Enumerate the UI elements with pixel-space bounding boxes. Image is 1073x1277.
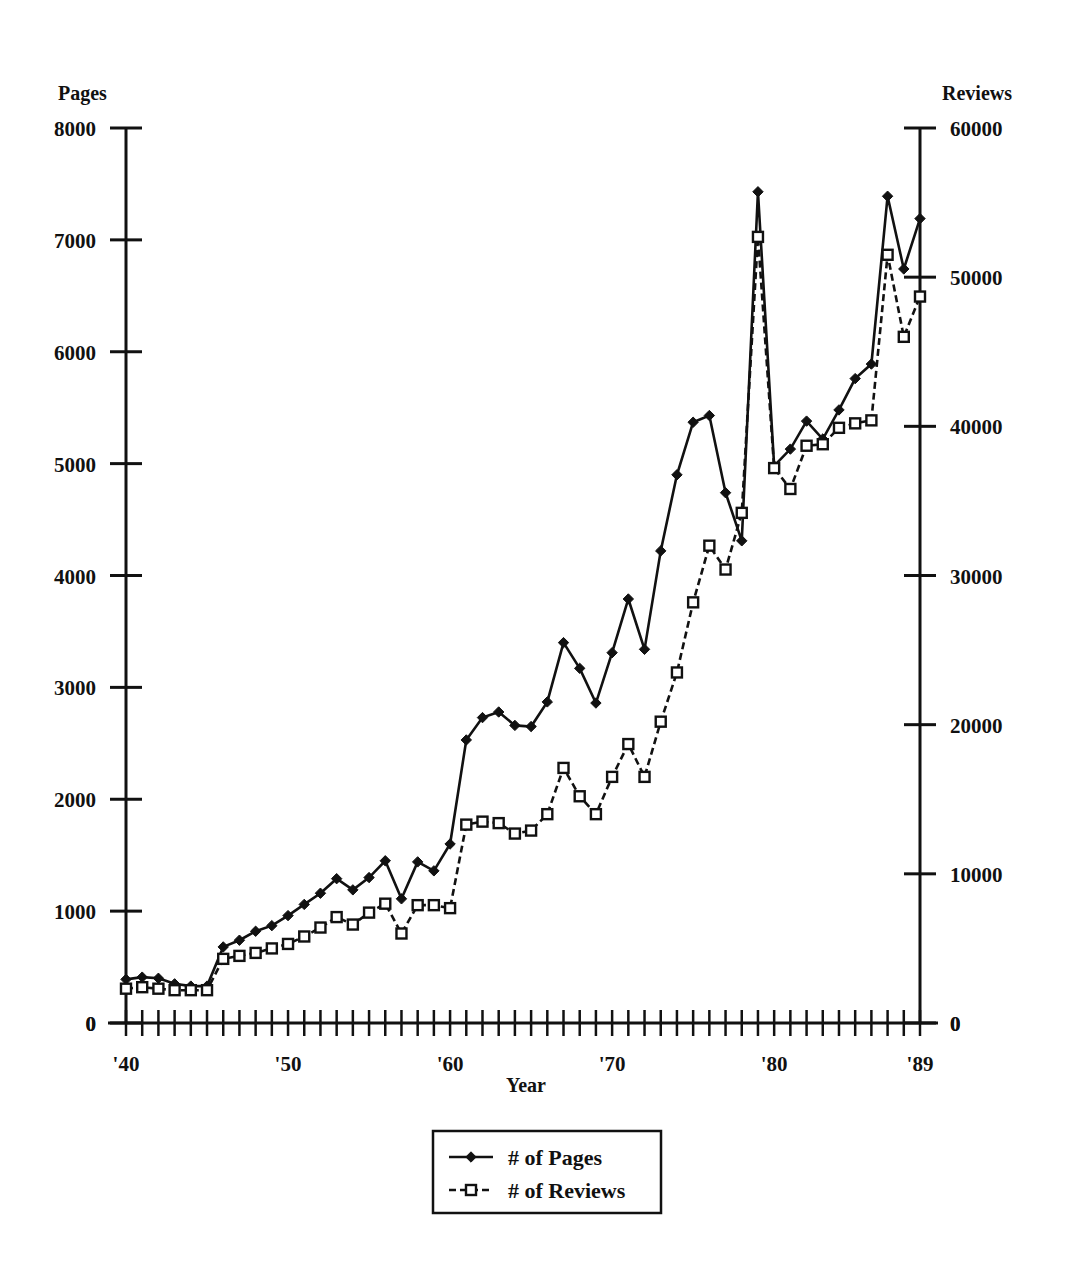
data-point-reviews (396, 929, 406, 939)
data-point-reviews (559, 763, 569, 773)
chart-legend: # of Pages# of Reviews (433, 1131, 661, 1213)
left-axis-tick-label: 6000 (54, 341, 96, 365)
x-axis-title: Year (506, 1074, 546, 1096)
data-point-reviews (315, 923, 325, 933)
legend-marker-reviews (466, 1185, 476, 1195)
data-point-reviews (721, 565, 731, 575)
legend-label-pages: # of Pages (508, 1145, 603, 1170)
data-point-reviews (672, 667, 682, 677)
data-point-reviews (802, 441, 812, 451)
data-point-reviews (283, 939, 293, 949)
data-point-reviews (380, 899, 390, 909)
x-axis-tick-label: '60 (437, 1052, 464, 1076)
legend-label-reviews: # of Reviews (508, 1178, 626, 1203)
x-axis-tick-label: '89 (907, 1052, 934, 1076)
data-point-reviews (785, 484, 795, 494)
data-point-reviews (591, 809, 601, 819)
data-point-reviews (623, 739, 633, 749)
data-point-reviews (526, 826, 536, 836)
left-axis-title: Pages (58, 82, 107, 105)
left-axis-tick-label: 2000 (54, 788, 96, 812)
right-axis-tick-label: 60000 (950, 117, 1003, 141)
data-point-reviews (121, 984, 131, 994)
right-axis-tick-label: 30000 (950, 565, 1003, 589)
left-axis-tick-label: 4000 (54, 565, 96, 589)
x-axis-tick-label: '70 (599, 1052, 626, 1076)
data-point-reviews (445, 903, 455, 913)
axis-zero-label: 0 (950, 1012, 961, 1036)
data-point-reviews (251, 948, 261, 958)
right-axis-tick-label: 20000 (950, 714, 1003, 738)
data-point-reviews (461, 820, 471, 830)
data-point-reviews (218, 954, 228, 964)
data-point-reviews (866, 415, 876, 425)
data-point-reviews (413, 900, 423, 910)
data-point-reviews (834, 423, 844, 433)
data-point-reviews (267, 943, 277, 953)
data-point-reviews (202, 985, 212, 995)
left-axis-tick-label: 7000 (54, 229, 96, 253)
data-point-reviews (348, 920, 358, 930)
right-axis-title: Reviews (942, 82, 1012, 104)
data-point-reviews (640, 772, 650, 782)
right-axis-tick-label: 40000 (950, 415, 1003, 439)
data-point-reviews (332, 912, 342, 922)
chart-figure: Pages Reviews Year 010002000300040005000… (0, 0, 1073, 1277)
data-point-reviews (818, 439, 828, 449)
data-point-reviews (753, 232, 763, 242)
data-point-reviews (915, 292, 925, 302)
data-point-reviews (850, 418, 860, 428)
data-point-reviews (429, 900, 439, 910)
right-axis-tick-label: 10000 (950, 863, 1003, 887)
data-point-reviews (737, 508, 747, 518)
data-point-reviews (704, 541, 714, 551)
data-point-reviews (153, 984, 163, 994)
data-point-reviews (769, 463, 779, 473)
x-axis-tick-label: '50 (275, 1052, 302, 1076)
left-axis-tick-label: 8000 (54, 117, 96, 141)
data-point-reviews (494, 818, 504, 828)
data-point-reviews (688, 597, 698, 607)
data-point-reviews (607, 772, 617, 782)
data-point-reviews (234, 951, 244, 961)
left-axis-tick-label: 1000 (54, 900, 96, 924)
x-axis-tick-label: '40 (113, 1052, 140, 1076)
data-point-reviews (656, 717, 666, 727)
data-point-reviews (364, 908, 374, 918)
x-axis-tick-label: '80 (761, 1052, 788, 1076)
data-point-reviews (510, 829, 520, 839)
data-point-reviews (477, 817, 487, 827)
left-axis-tick-label: 5000 (54, 453, 96, 477)
axis-zero-label: 0 (86, 1012, 97, 1036)
data-point-reviews (186, 985, 196, 995)
data-point-reviews (170, 985, 180, 995)
data-point-reviews (883, 250, 893, 260)
data-point-reviews (899, 332, 909, 342)
right-axis-tick-label: 50000 (950, 266, 1003, 290)
left-axis-tick-label: 3000 (54, 676, 96, 700)
data-point-reviews (299, 931, 309, 941)
data-point-reviews (542, 809, 552, 819)
data-point-reviews (575, 791, 585, 801)
data-point-reviews (137, 982, 147, 992)
